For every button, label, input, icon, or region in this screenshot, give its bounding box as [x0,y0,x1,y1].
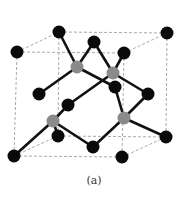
cube-edge [14,52,17,156]
lattice-atom [88,36,101,49]
cube-edge [122,137,166,157]
cube-edge [122,53,124,157]
bond [124,118,166,137]
figure-caption: (a) [0,174,188,187]
cube-edge [59,32,167,33]
interior-atom [71,61,84,74]
cube-edge [14,156,122,157]
bond [14,121,53,156]
lattice-atom [87,141,100,154]
interior-atom [118,112,131,125]
lattice-atom [161,27,174,40]
atoms [8,26,174,164]
lattice-atom [53,26,66,39]
lattice-atom [142,88,155,101]
cube-edge [14,136,58,156]
cube-edge [166,33,167,137]
crystal-structure-diagram [0,0,188,200]
cube-edge [17,32,59,52]
lattice-atom [33,88,46,101]
lattice-atom [116,151,129,164]
lattice-atom [109,81,122,94]
interior-atom [107,67,120,80]
lattice-atom [118,47,131,60]
lattice-atom [62,99,75,112]
lattice-atom [11,46,24,59]
interior-atom [47,115,60,128]
bond [68,73,113,105]
lattice-atom [160,131,173,144]
lattice-atom [52,130,65,143]
cube-edge [124,33,167,53]
lattice-atom [8,150,21,163]
